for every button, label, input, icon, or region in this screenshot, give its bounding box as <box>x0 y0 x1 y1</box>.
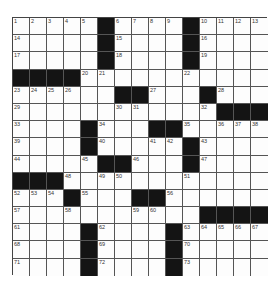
grid-cell[interactable] <box>47 224 64 241</box>
grid-cell[interactable]: 6 <box>115 18 132 35</box>
grid-cell[interactable] <box>98 87 115 104</box>
grid-cell[interactable] <box>251 173 268 190</box>
grid-cell[interactable] <box>166 35 183 52</box>
grid-cell[interactable]: 4 <box>64 18 81 35</box>
grid-cell[interactable] <box>81 35 98 52</box>
grid-cell[interactable]: 3 <box>47 18 64 35</box>
grid-cell[interactable]: 47 <box>200 156 217 173</box>
grid-cell[interactable] <box>64 35 81 52</box>
grid-cell[interactable]: 23 <box>13 87 30 104</box>
grid-cell[interactable] <box>98 190 115 207</box>
grid-cell[interactable]: 15 <box>115 35 132 52</box>
grid-cell[interactable] <box>251 70 268 87</box>
grid-cell[interactable]: 70 <box>183 241 200 258</box>
grid-cell[interactable] <box>81 173 98 190</box>
grid-cell[interactable] <box>30 52 47 69</box>
grid-cell[interactable] <box>30 241 47 258</box>
grid-cell[interactable] <box>200 259 217 276</box>
grid-cell[interactable] <box>47 121 64 138</box>
grid-cell[interactable] <box>251 87 268 104</box>
grid-cell[interactable]: 73 <box>183 259 200 276</box>
grid-cell[interactable] <box>166 87 183 104</box>
grid-cell[interactable]: 19 <box>200 52 217 69</box>
grid-cell[interactable]: 26 <box>64 87 81 104</box>
grid-cell[interactable]: 51 <box>183 173 200 190</box>
grid-cell[interactable] <box>64 104 81 121</box>
grid-cell[interactable]: 58 <box>64 207 81 224</box>
grid-cell[interactable]: 32 <box>200 104 217 121</box>
grid-cell[interactable] <box>30 104 47 121</box>
grid-cell[interactable]: 45 <box>81 156 98 173</box>
grid-cell[interactable] <box>234 138 251 155</box>
grid-cell[interactable] <box>200 70 217 87</box>
grid-cell[interactable]: 36 <box>217 121 234 138</box>
grid-cell[interactable]: 48 <box>64 173 81 190</box>
grid-cell[interactable] <box>115 224 132 241</box>
grid-cell[interactable]: 28 <box>217 87 234 104</box>
grid-cell[interactable] <box>64 138 81 155</box>
grid-cell[interactable] <box>30 207 47 224</box>
grid-cell[interactable] <box>234 70 251 87</box>
grid-cell[interactable] <box>47 156 64 173</box>
grid-cell[interactable] <box>64 241 81 258</box>
grid-cell[interactable]: 31 <box>132 104 149 121</box>
grid-cell[interactable] <box>183 190 200 207</box>
grid-cell[interactable]: 55 <box>81 190 98 207</box>
grid-cell[interactable]: 42 <box>166 138 183 155</box>
grid-cell[interactable]: 18 <box>115 52 132 69</box>
grid-cell[interactable]: 37 <box>234 121 251 138</box>
grid-cell[interactable] <box>166 156 183 173</box>
grid-cell[interactable] <box>81 104 98 121</box>
grid-cell[interactable] <box>217 156 234 173</box>
grid-cell[interactable] <box>149 70 166 87</box>
grid-cell[interactable]: 22 <box>183 70 200 87</box>
grid-cell[interactable] <box>30 259 47 276</box>
grid-cell[interactable]: 20 <box>81 70 98 87</box>
grid-cell[interactable]: 68 <box>13 241 30 258</box>
grid-cell[interactable] <box>234 87 251 104</box>
grid-cell[interactable] <box>217 259 234 276</box>
grid-cell[interactable] <box>149 156 166 173</box>
grid-cell[interactable] <box>251 138 268 155</box>
grid-cell[interactable] <box>64 224 81 241</box>
grid-cell[interactable] <box>47 35 64 52</box>
grid-cell[interactable] <box>132 173 149 190</box>
grid-cell[interactable]: 29 <box>13 104 30 121</box>
grid-cell[interactable] <box>234 190 251 207</box>
grid-cell[interactable] <box>98 104 115 121</box>
grid-cell[interactable] <box>217 52 234 69</box>
grid-cell[interactable]: 59 <box>132 207 149 224</box>
grid-cell[interactable] <box>234 173 251 190</box>
grid-cell[interactable] <box>234 156 251 173</box>
grid-cell[interactable] <box>64 52 81 69</box>
grid-cell[interactable] <box>64 259 81 276</box>
grid-cell[interactable]: 9 <box>166 18 183 35</box>
grid-cell[interactable]: 35 <box>183 121 200 138</box>
grid-cell[interactable]: 65 <box>217 224 234 241</box>
grid-cell[interactable]: 44 <box>13 156 30 173</box>
grid-cell[interactable] <box>149 259 166 276</box>
grid-cell[interactable] <box>47 138 64 155</box>
grid-cell[interactable]: 57 <box>13 207 30 224</box>
grid-cell[interactable]: 5 <box>81 18 98 35</box>
grid-cell[interactable] <box>30 138 47 155</box>
grid-cell[interactable]: 14 <box>13 35 30 52</box>
grid-cell[interactable]: 63 <box>183 224 200 241</box>
grid-cell[interactable] <box>183 104 200 121</box>
grid-cell[interactable] <box>251 52 268 69</box>
grid-cell[interactable] <box>81 87 98 104</box>
grid-cell[interactable] <box>47 207 64 224</box>
grid-cell[interactable] <box>132 52 149 69</box>
grid-cell[interactable]: 60 <box>149 207 166 224</box>
grid-cell[interactable] <box>30 35 47 52</box>
grid-cell[interactable] <box>81 52 98 69</box>
grid-cell[interactable] <box>47 104 64 121</box>
grid-cell[interactable] <box>115 207 132 224</box>
grid-cell[interactable] <box>115 138 132 155</box>
grid-cell[interactable]: 24 <box>30 87 47 104</box>
grid-cell[interactable] <box>149 35 166 52</box>
grid-cell[interactable] <box>149 104 166 121</box>
grid-cell[interactable] <box>64 156 81 173</box>
grid-cell[interactable] <box>251 259 268 276</box>
grid-cell[interactable]: 13 <box>251 18 268 35</box>
